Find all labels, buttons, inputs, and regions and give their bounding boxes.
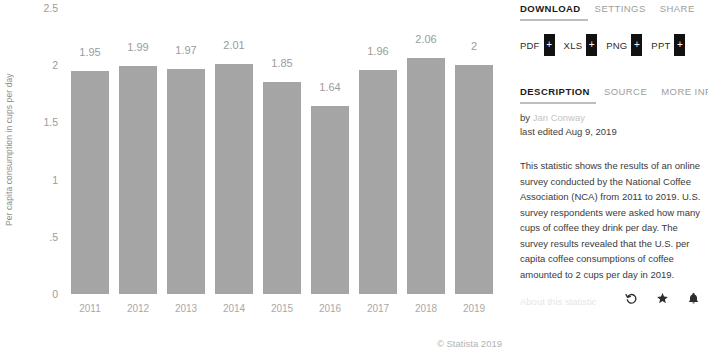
star-icon[interactable] xyxy=(656,292,669,305)
bar-column[interactable]: 2.062018 xyxy=(402,8,450,294)
tab-more-info[interactable]: MORE INFO xyxy=(661,86,708,97)
bar-column[interactable]: 1.952011 xyxy=(66,8,114,294)
bell-icon[interactable] xyxy=(687,292,700,305)
y-axis-tick: 0 xyxy=(16,288,58,300)
plot-area: 2.521.51.50 1.9520111.9920121.9720132.01… xyxy=(16,8,502,318)
tab-share[interactable]: SHARE xyxy=(660,3,695,14)
download-tab-underline xyxy=(520,19,588,22)
bar-column[interactable]: 2.012014 xyxy=(210,8,258,294)
y-axis-tick: 2.5 xyxy=(16,2,58,14)
byline-prefix: by xyxy=(520,112,533,123)
tab-settings[interactable]: SETTINGS xyxy=(595,3,646,14)
download-button-row: PDF + XLS + PNG + PPT + xyxy=(520,34,685,56)
y-axis-tick: 1.5 xyxy=(16,116,58,128)
bar-value-label: 2 xyxy=(450,40,498,52)
bar-rect xyxy=(263,82,301,294)
bar-rect xyxy=(311,106,349,294)
tab-download[interactable]: DOWNLOAD xyxy=(520,3,581,14)
bar-rect xyxy=(119,66,157,294)
side-panel: DOWNLOAD SETTINGS SHARE PDF + XLS + PNG … xyxy=(512,0,708,358)
info-tab-row: DESCRIPTION SOURCE MORE INFO xyxy=(520,86,708,97)
download-xls-button[interactable]: XLS + xyxy=(564,34,598,56)
bar-column[interactable]: 1.962017 xyxy=(354,8,402,294)
y-axis-tick: 1 xyxy=(16,174,58,186)
y-axis-title: Per capita consumption in cups per day xyxy=(2,0,16,300)
bar-value-label: 2.01 xyxy=(210,39,258,51)
download-png-button[interactable]: PNG + xyxy=(606,34,642,56)
info-tab-underline xyxy=(520,102,596,105)
bar-column[interactable]: 1.992012 xyxy=(114,8,162,294)
bar-column[interactable]: 22019 xyxy=(450,8,498,294)
statista-chart-page: Per capita consumption in cups per day 2… xyxy=(0,0,708,358)
bar-value-label: 1.99 xyxy=(114,41,162,53)
about-this-statistic-link[interactable]: About this statistic xyxy=(520,296,597,307)
y-axis-tick: .5 xyxy=(16,231,58,243)
plus-icon: + xyxy=(544,34,555,56)
x-axis-tick: 2016 xyxy=(306,303,354,314)
action-icon-row xyxy=(625,292,700,305)
y-axis-tick: 2 xyxy=(16,59,58,71)
x-axis-tick: 2018 xyxy=(402,303,450,314)
download-pdf-button[interactable]: PDF + xyxy=(520,34,555,56)
bar-column[interactable]: 1.972013 xyxy=(162,8,210,294)
x-axis-tick: 2013 xyxy=(162,303,210,314)
x-axis-tick: 2015 xyxy=(258,303,306,314)
bar-series: 1.9520111.9920121.9720132.0120141.852015… xyxy=(66,8,498,294)
download-xls-label: XLS xyxy=(564,40,583,51)
download-tab-row: DOWNLOAD SETTINGS SHARE xyxy=(520,3,695,14)
author-link[interactable]: Jan Conway xyxy=(533,112,585,123)
x-axis-tick: 2011 xyxy=(66,303,114,314)
plus-icon: + xyxy=(586,34,597,56)
download-png-label: PNG xyxy=(606,40,627,51)
bar-column[interactable]: 1.852015 xyxy=(258,8,306,294)
bar-rect xyxy=(455,65,493,294)
byline: by Jan Conway xyxy=(520,112,585,123)
description-text: This statistic shows the results of an o… xyxy=(520,158,706,282)
x-axis-tick: 2017 xyxy=(354,303,402,314)
plus-icon: + xyxy=(674,34,685,56)
bar-rect xyxy=(167,69,205,294)
bar-column[interactable]: 1.642016 xyxy=(306,8,354,294)
bar-value-label: 1.95 xyxy=(66,46,114,58)
download-pdf-label: PDF xyxy=(520,40,540,51)
bar-value-label: 1.97 xyxy=(162,44,210,56)
plus-icon: + xyxy=(631,34,642,56)
chart-panel: Per capita consumption in cups per day 2… xyxy=(0,0,510,358)
bar-rect xyxy=(407,58,445,294)
bar-rect xyxy=(71,71,109,294)
download-ppt-button[interactable]: PPT + xyxy=(651,34,685,56)
tab-source[interactable]: SOURCE xyxy=(604,86,647,97)
bar-value-label: 1.85 xyxy=(258,57,306,69)
bar-rect xyxy=(359,70,397,294)
x-axis-tick: 2019 xyxy=(450,303,498,314)
x-axis-tick: 2012 xyxy=(114,303,162,314)
bar-rect xyxy=(215,64,253,294)
bar-value-label: 1.96 xyxy=(354,45,402,57)
tab-description[interactable]: DESCRIPTION xyxy=(520,86,590,97)
bar-value-label: 2.06 xyxy=(402,33,450,45)
history-icon[interactable] xyxy=(625,292,638,305)
x-axis-tick: 2014 xyxy=(210,303,258,314)
download-ppt-label: PPT xyxy=(651,40,670,51)
copyright-label: © Statista 2019 xyxy=(437,338,502,349)
last-edited-label: last edited Aug 9, 2019 xyxy=(520,126,617,137)
bar-value-label: 1.64 xyxy=(306,81,354,93)
